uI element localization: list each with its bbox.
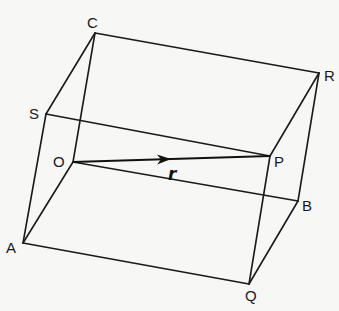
vector-label-r: r [168,164,178,184]
vertex-label-R: R [324,67,335,84]
vertex-label-A: A [6,239,16,256]
vertex-label-S: S [29,105,39,122]
edge-AQ [23,243,249,284]
position-vector-r: r [73,154,270,184]
vertex-label-C: C [87,14,98,31]
cuboid-diagram: r CSOARPBQ [0,0,339,311]
edge-SP [46,114,270,156]
vertex-label-B: B [302,197,312,214]
vertex-label-O: O [53,153,65,170]
vertex-label-P: P [274,153,284,170]
vector-line-OP [73,156,270,162]
vertex-label-Q: Q [245,287,257,304]
edge-CR [95,33,319,73]
